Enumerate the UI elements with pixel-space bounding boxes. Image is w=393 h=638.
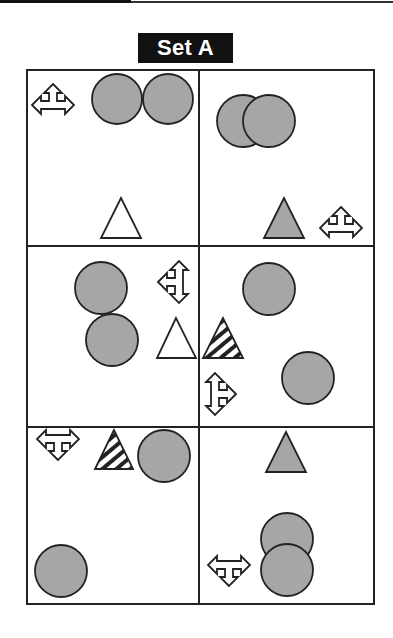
cell-r2-c0 — [35, 430, 190, 597]
gray-triangle — [264, 198, 304, 238]
cell-r1-c0 — [75, 261, 196, 366]
t-arrow-icon — [320, 207, 362, 237]
cell-r1-c1 — [203, 263, 334, 415]
t-arrow-icon — [158, 261, 188, 303]
gray-circle — [143, 74, 193, 124]
cell-r2-c1 — [208, 432, 313, 596]
striped-triangle — [203, 318, 243, 358]
gray-circle — [282, 352, 334, 404]
gray-circle — [261, 544, 313, 596]
white-triangle — [157, 318, 196, 358]
cell-r0-c1 — [217, 95, 362, 238]
puzzle-grid — [0, 0, 393, 638]
t-arrow-icon — [206, 373, 236, 415]
gray-circle — [243, 263, 295, 315]
cell-r0-c0 — [32, 74, 193, 238]
white-triangle — [101, 198, 141, 238]
gray-circle — [92, 74, 142, 124]
t-arrow-icon — [208, 556, 250, 586]
gray-triangle — [266, 432, 306, 472]
gray-circle — [138, 430, 190, 482]
t-arrow-icon — [32, 84, 74, 114]
gray-circle — [243, 95, 295, 147]
grid-frame — [27, 70, 374, 604]
t-arrow-icon — [37, 430, 79, 460]
gray-circle — [35, 545, 87, 597]
gray-circle — [86, 314, 138, 366]
gray-circle — [75, 262, 127, 314]
striped-triangle — [95, 430, 133, 469]
